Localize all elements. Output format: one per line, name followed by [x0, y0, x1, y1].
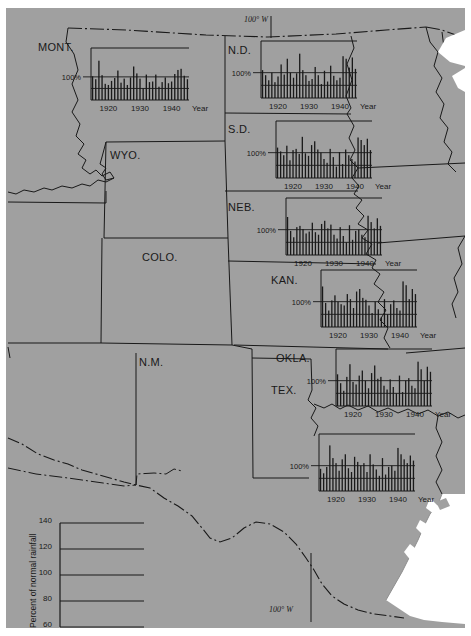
- chart-bar: [345, 454, 346, 491]
- chart-bar: [370, 150, 371, 178]
- chart-bar: [348, 468, 349, 491]
- chart-x-tick-label: 1930: [131, 104, 149, 113]
- wyo-east-boundary: [225, 141, 228, 238]
- chart-bar: [321, 84, 322, 98]
- state-label-nm: N.M.: [139, 356, 163, 368]
- chart-bar: [326, 467, 327, 491]
- colo-kan-boundary: [228, 238, 232, 345]
- chart-bar: [406, 285, 407, 327]
- chart-bar: [327, 82, 328, 98]
- chart-bar: [352, 57, 353, 98]
- chart-bar: [352, 240, 353, 255]
- chart-bar: [379, 476, 380, 491]
- legend-tick-100: 100: [30, 568, 52, 577]
- chart-bar: [324, 221, 325, 255]
- chart-bar: [340, 383, 341, 406]
- chart-bar: [384, 299, 385, 327]
- chart-bar: [362, 298, 363, 327]
- chart-bar: [165, 77, 166, 100]
- chart-bar: [390, 304, 391, 327]
- chart-bar: [405, 381, 406, 406]
- chart-bar: [367, 216, 368, 255]
- chart-bar: [340, 304, 341, 327]
- chart-bar: [378, 309, 379, 327]
- inset-chart-okla: 192019301940Year100%: [336, 349, 465, 426]
- chart-x-axis-label: Year: [420, 331, 437, 340]
- chart-bar: [277, 148, 278, 178]
- chart-x-tick-label: 1940: [346, 182, 364, 191]
- nm-south-boundary: [8, 468, 182, 486]
- chart-bar: [293, 78, 294, 98]
- chart-bar: [358, 230, 359, 255]
- chart-bar: [323, 473, 324, 491]
- chart-bar: [359, 376, 360, 406]
- chart-bar: [105, 84, 106, 100]
- chart-bar: [323, 159, 324, 178]
- chart-bar: [290, 231, 291, 255]
- montana-wyo-north-boundary: [106, 141, 225, 142]
- chart-bar: [155, 75, 156, 100]
- canada-border-east: [426, 27, 456, 35]
- chart-bar: [330, 66, 331, 98]
- chart-bar: [383, 386, 384, 406]
- canada-border: [68, 27, 426, 37]
- chart-bar: [366, 472, 367, 491]
- chart-bar: [312, 223, 313, 255]
- chart-bar: [299, 226, 300, 255]
- chart-bar: [317, 150, 318, 179]
- chart-bar: [95, 79, 96, 100]
- chart-x-tick-label: 1920: [329, 331, 347, 340]
- chart-x-tick-label: 1920: [269, 102, 287, 111]
- chart-bar: [371, 373, 372, 406]
- state-label-neb: NEB.: [228, 201, 255, 213]
- chart-bar: [331, 300, 332, 327]
- chart-bar: [386, 390, 387, 406]
- chart-bar: [333, 76, 334, 98]
- state-label-wyo: WYO.: [110, 149, 141, 161]
- chart-bar: [296, 73, 297, 98]
- chart-bar: [346, 59, 347, 98]
- chart-bar: [369, 454, 370, 491]
- chart-bar: [146, 75, 147, 100]
- chart-bar: [388, 467, 389, 491]
- chart-bar: [365, 300, 366, 327]
- inset-chart-sd: 192019301940Year100%: [276, 121, 418, 198]
- chart-bar: [330, 225, 331, 255]
- chart-x-tick-label: 1930: [375, 410, 393, 419]
- chart-y-axis-label-100pct: 100%: [257, 226, 277, 235]
- chart-bar: [349, 68, 350, 98]
- chart-x-tick-label: 1940: [406, 410, 424, 419]
- chart-bar: [152, 82, 153, 100]
- chart-bar: [430, 372, 431, 406]
- chart-bar: [349, 364, 350, 406]
- chart-plot: 192019301940Year100%: [276, 121, 418, 198]
- chart-x-tick-label: 1930: [360, 331, 378, 340]
- chart-bar: [342, 56, 343, 98]
- chart-bar: [335, 463, 336, 491]
- chart-y-axis-label-100pct: 100%: [307, 377, 327, 386]
- chart-bar: [368, 388, 369, 406]
- chart-bar: [353, 308, 354, 327]
- chart-bar: [133, 66, 134, 100]
- chart-bar: [380, 377, 381, 406]
- lake-superior-bay: [452, 68, 465, 92]
- chart-bar: [111, 81, 112, 100]
- chart-bar: [424, 381, 425, 406]
- chart-bar: [371, 313, 372, 327]
- chart-bar: [350, 299, 351, 327]
- chart-bar: [158, 87, 159, 100]
- chart-bar: [342, 164, 343, 178]
- chart-bar: [355, 69, 356, 98]
- state-label-okla: OKLA.: [276, 352, 310, 364]
- chart-bar: [342, 459, 343, 491]
- chart-bar: [296, 227, 297, 255]
- chart-bar: [305, 233, 306, 255]
- chart-bar: [407, 463, 408, 491]
- chart-bar: [117, 71, 118, 100]
- chart-y-axis-label-100pct: 100%: [247, 149, 267, 158]
- chart-bar: [361, 235, 362, 255]
- state-label-mont: MONT.: [38, 41, 74, 53]
- chart-bar: [343, 391, 344, 406]
- chart-bar: [356, 292, 357, 327]
- chart-bar: [385, 475, 386, 491]
